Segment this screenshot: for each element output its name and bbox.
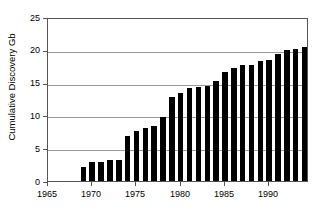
x-tick-label: 1970 (81, 190, 101, 199)
x-tick-mark (91, 182, 92, 186)
bar (151, 126, 156, 181)
cumulative-discovery-bar-chart: Cumulative Discovery Gb 0510152025 19651… (0, 0, 320, 210)
bar (205, 86, 210, 181)
bar (178, 93, 183, 181)
x-tick-mark (224, 182, 225, 186)
y-tick-mark (43, 149, 47, 150)
x-tick-label: 1985 (214, 190, 234, 199)
y-tick-label: 10 (30, 112, 40, 121)
y-axis: Cumulative Discovery Gb 0510152025 (0, 0, 47, 210)
x-tick-mark (47, 182, 48, 186)
y-tick-label: 25 (30, 14, 40, 23)
y-tick-label: 5 (35, 145, 40, 154)
x-tick-label: 1975 (125, 190, 145, 199)
x-tick-label: 1965 (37, 190, 57, 199)
bar (231, 68, 236, 181)
bar (160, 117, 165, 181)
bar (284, 50, 289, 181)
bar (81, 167, 86, 181)
y-tick-mark (43, 84, 47, 85)
x-tick-label: 1990 (258, 190, 278, 199)
bar (302, 47, 307, 181)
bar (266, 60, 271, 181)
y-tick-mark (43, 18, 47, 19)
bar (98, 162, 103, 181)
bar (249, 65, 254, 181)
bar (240, 65, 245, 181)
bar (222, 72, 227, 181)
y-tick-mark (43, 116, 47, 117)
x-tick-mark (180, 182, 181, 186)
bar (275, 54, 280, 181)
plot-area (47, 18, 308, 182)
bar (125, 136, 130, 181)
x-axis: 196519701975198019851990 (0, 182, 320, 210)
bar (134, 131, 139, 181)
x-tick-mark (135, 182, 136, 186)
bar (213, 81, 218, 181)
y-tick-mark (43, 51, 47, 52)
bar (107, 160, 112, 181)
bar (196, 87, 201, 181)
bar (258, 61, 263, 181)
bar (293, 49, 298, 181)
bar (89, 162, 94, 181)
y-tick-label: 20 (30, 46, 40, 55)
bar (187, 88, 192, 181)
bar (169, 97, 174, 181)
bar (143, 128, 148, 181)
x-tick-mark (268, 182, 269, 186)
bar-series (48, 19, 307, 181)
y-axis-title: Cumulative Discovery Gb (7, 12, 17, 162)
x-tick-label: 1980 (170, 190, 190, 199)
y-tick-label: 15 (30, 79, 40, 88)
bar (116, 160, 121, 181)
